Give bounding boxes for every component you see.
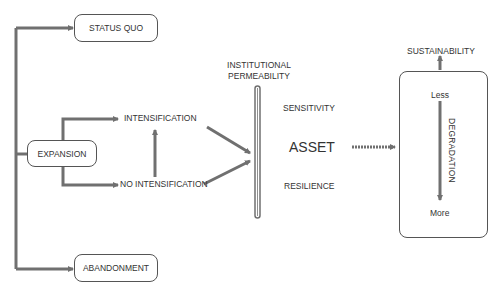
expansion-label: EXPANSION [38, 149, 87, 159]
less-label: Less [431, 90, 449, 101]
asset-label: ASSET [289, 139, 335, 155]
more-label: More [430, 208, 449, 219]
institutional-permeability-line2: PERMEABILITY [227, 71, 291, 82]
abandonment-node: ABANDONMENT [74, 254, 158, 282]
resilience-label: RESILIENCE [284, 181, 335, 192]
institutional-permeability-line1: INSTITUTIONAL [227, 60, 291, 71]
sustainability-label: SUSTAINABILITY [407, 46, 475, 57]
intensification-label: INTENSIFICATION [124, 113, 197, 124]
degradation-label: DEGRADATION [446, 118, 457, 183]
status-quo-node: STATUS QUO [74, 14, 158, 42]
expansion-node: EXPANSION [27, 140, 97, 167]
sensitivity-label: SENSITIVITY [283, 103, 335, 114]
abandonment-label: ABANDONMENT [83, 263, 149, 273]
status-quo-label: STATUS QUO [89, 23, 143, 33]
institutional-permeability-label: INSTITUTIONAL PERMEABILITY [227, 60, 291, 82]
no-intensification-label: NO INTENSIFICATION [120, 179, 208, 190]
